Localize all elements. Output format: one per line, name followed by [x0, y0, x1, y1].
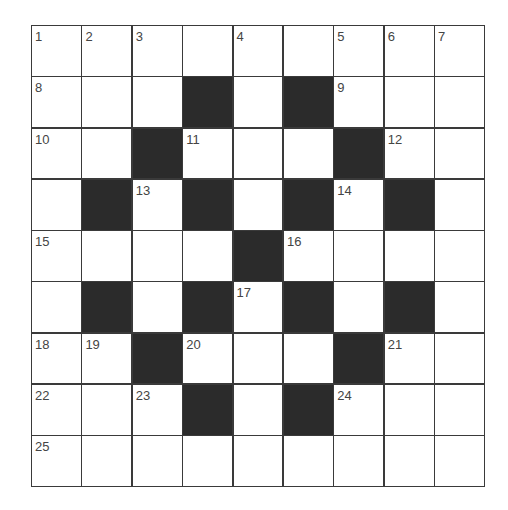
crossword-cell[interactable]: [133, 231, 182, 281]
clue-number: 3: [136, 30, 143, 43]
crossword-cell[interactable]: [234, 180, 283, 230]
crossword-cell[interactable]: [334, 231, 383, 281]
crossword-cell[interactable]: 24: [334, 385, 383, 435]
black-cell: [284, 180, 333, 230]
crossword-cell[interactable]: 3: [133, 26, 182, 76]
crossword-cell[interactable]: [435, 385, 484, 435]
black-cell: [183, 77, 232, 127]
clue-number: 21: [388, 338, 402, 351]
black-cell: [284, 282, 333, 332]
crossword-cell[interactable]: [385, 436, 434, 486]
clue-number: 17: [237, 286, 251, 299]
crossword-cell[interactable]: [133, 77, 182, 127]
crossword-cell[interactable]: 13: [133, 180, 182, 230]
crossword-cell[interactable]: [32, 282, 81, 332]
crossword-cell[interactable]: 9: [334, 77, 383, 127]
clue-number: 9: [337, 81, 344, 94]
crossword-cell[interactable]: [385, 77, 434, 127]
crossword-cell[interactable]: 10: [32, 129, 81, 179]
clue-number: 14: [337, 184, 351, 197]
crossword-cell[interactable]: [234, 77, 283, 127]
crossword-cell[interactable]: 22: [32, 385, 81, 435]
clue-number: 5: [337, 30, 344, 43]
crossword-cell[interactable]: 17: [234, 282, 283, 332]
crossword-cell[interactable]: 8: [32, 77, 81, 127]
crossword-cell[interactable]: 21: [385, 334, 434, 384]
crossword-cell[interactable]: [82, 77, 131, 127]
clue-number: 19: [85, 338, 99, 351]
crossword-cell[interactable]: [385, 385, 434, 435]
crossword-cell[interactable]: [284, 129, 333, 179]
crossword-cell[interactable]: 20: [183, 334, 232, 384]
black-cell: [334, 334, 383, 384]
crossword-cell[interactable]: [234, 129, 283, 179]
clue-number: 1: [35, 30, 42, 43]
crossword-cell[interactable]: 6: [385, 26, 434, 76]
crossword-cell[interactable]: 2: [82, 26, 131, 76]
crossword-cell[interactable]: [284, 436, 333, 486]
black-cell: [133, 129, 182, 179]
crossword-cell[interactable]: 11: [183, 129, 232, 179]
clue-number: 2: [85, 30, 92, 43]
black-cell: [183, 385, 232, 435]
crossword-cell[interactable]: [435, 231, 484, 281]
crossword-cell[interactable]: [32, 180, 81, 230]
crossword-cell[interactable]: 18: [32, 334, 81, 384]
crossword-cell[interactable]: 1: [32, 26, 81, 76]
clue-number: 6: [388, 30, 395, 43]
crossword-cell[interactable]: 19: [82, 334, 131, 384]
crossword-cell[interactable]: [334, 282, 383, 332]
crossword-cell[interactable]: 4: [234, 26, 283, 76]
black-cell: [82, 282, 131, 332]
crossword-cell[interactable]: [82, 436, 131, 486]
crossword-cell[interactable]: [183, 231, 232, 281]
crossword-cell[interactable]: [284, 334, 333, 384]
clue-number: 15: [35, 235, 49, 248]
crossword-cell[interactable]: [385, 231, 434, 281]
crossword-cell[interactable]: [435, 77, 484, 127]
crossword-cell[interactable]: [133, 282, 182, 332]
crossword-cell[interactable]: [133, 436, 182, 486]
crossword-cell[interactable]: [82, 231, 131, 281]
black-cell: [183, 282, 232, 332]
crossword-cell[interactable]: 25: [32, 436, 81, 486]
clue-number: 8: [35, 81, 42, 94]
black-cell: [284, 385, 333, 435]
clue-number: 10: [35, 133, 49, 146]
crossword-cell[interactable]: [183, 436, 232, 486]
black-cell: [385, 180, 434, 230]
crossword-cell[interactable]: [435, 129, 484, 179]
crossword-cell[interactable]: [183, 26, 232, 76]
crossword-cell[interactable]: 12: [385, 129, 434, 179]
clue-number: 23: [136, 389, 150, 402]
crossword-cell[interactable]: [334, 436, 383, 486]
crossword-cell[interactable]: 7: [435, 26, 484, 76]
black-cell: [334, 129, 383, 179]
black-cell: [385, 282, 434, 332]
crossword-cell[interactable]: [82, 385, 131, 435]
black-cell: [82, 180, 131, 230]
crossword-cell[interactable]: [435, 180, 484, 230]
crossword-cell[interactable]: 16: [284, 231, 333, 281]
crossword-cell[interactable]: [435, 436, 484, 486]
crossword-cell[interactable]: [435, 334, 484, 384]
crossword-cell[interactable]: [234, 436, 283, 486]
clue-number: 7: [438, 30, 445, 43]
crossword-cell[interactable]: 5: [334, 26, 383, 76]
clue-number: 11: [186, 133, 200, 146]
clue-number: 25: [35, 440, 49, 453]
crossword-cell[interactable]: 15: [32, 231, 81, 281]
black-cell: [284, 77, 333, 127]
clue-number: 24: [337, 389, 351, 402]
crossword-cell[interactable]: 14: [334, 180, 383, 230]
crossword-cell[interactable]: 23: [133, 385, 182, 435]
black-cell: [183, 180, 232, 230]
crossword-cell[interactable]: [435, 282, 484, 332]
crossword-cell[interactable]: [284, 26, 333, 76]
crossword-cell[interactable]: [234, 334, 283, 384]
crossword-cell[interactable]: [82, 129, 131, 179]
clue-number: 4: [237, 30, 244, 43]
clue-number: 13: [136, 184, 150, 197]
black-cell: [234, 231, 283, 281]
crossword-cell[interactable]: [234, 385, 283, 435]
